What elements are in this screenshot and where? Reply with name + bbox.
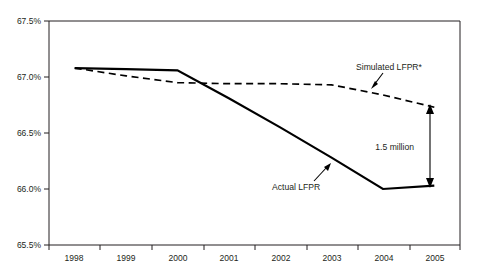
annotation-label-gap: 1.5 million [375, 142, 414, 152]
y-tick-label-2: 66.5% [17, 128, 42, 138]
annotation-arrow-actual [314, 167, 327, 181]
annotation-label-simulated: Simulated LFPR* [356, 62, 423, 72]
x-tick-label-2: 2000 [169, 253, 188, 263]
x-axis-labels: 1998 1999 2000 2001 2002 2003 2004 2005 [65, 253, 445, 263]
x-tick-label-1: 1999 [117, 253, 136, 263]
y-tick-label-4: 65.5% [17, 240, 42, 250]
annotation-arrowhead-simulated [371, 81, 378, 89]
x-tick-label-4: 2002 [272, 253, 291, 263]
x-tick-label-6: 2004 [375, 253, 394, 263]
annotation-simulated-lfpr: Simulated LFPR* [356, 62, 423, 89]
lfpr-line-chart: 67.5% 67.0% 66.5% 66.0% 65.5% 1998 1999 … [0, 0, 478, 277]
x-tick-label-7: 2005 [426, 253, 445, 263]
annotation-actual-lfpr: Actual LFPR [272, 163, 331, 192]
annotation-label-actual: Actual LFPR [272, 182, 320, 192]
chart-container: 67.5% 67.0% 66.5% 66.0% 65.5% 1998 1999 … [0, 0, 478, 277]
y-tick-label-1: 67.0% [17, 72, 42, 82]
y-axis-labels: 67.5% 67.0% 66.5% 66.0% 65.5% [17, 16, 42, 250]
y-tick-label-0: 67.5% [17, 16, 42, 26]
series-line-simulated-lfpr [75, 68, 435, 107]
x-axis-ticks [49, 245, 460, 250]
gap-arrowhead-up [426, 104, 434, 114]
x-tick-label-0: 1998 [65, 253, 84, 263]
y-axis-ticks [44, 21, 49, 245]
y-tick-label-3: 66.0% [17, 184, 42, 194]
x-tick-label-5: 2003 [323, 253, 342, 263]
annotation-gap-1-5-million: 1.5 million [375, 104, 434, 188]
x-tick-label-3: 2001 [220, 253, 239, 263]
axis-frame [49, 21, 460, 245]
series-line-actual-lfpr [75, 68, 435, 189]
